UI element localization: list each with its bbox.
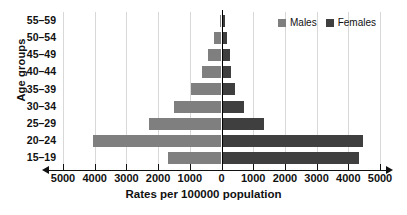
chart-legend: Males Females: [278, 17, 376, 28]
bar-males: [214, 32, 222, 44]
x-tick-label: 5000: [368, 172, 392, 184]
y-tick-label: 45–49: [0, 48, 56, 60]
legend-label-females: Females: [338, 17, 376, 28]
y-tick-label: 30–34: [0, 100, 56, 112]
x-axis-title: Rates per 100000 population: [0, 188, 407, 200]
y-tick-label: 50–54: [0, 31, 56, 43]
gridline: [380, 12, 381, 167]
x-tick: [126, 164, 127, 171]
bar-males: [174, 101, 222, 113]
y-tick-label: 15–19: [0, 151, 56, 163]
x-tick: [317, 164, 318, 171]
x-tick: [222, 164, 223, 171]
female-swatch-icon: [326, 19, 334, 27]
x-tick: [158, 164, 159, 171]
x-tick: [95, 164, 96, 171]
bar-females: [222, 66, 232, 78]
x-tick-label: 2000: [273, 172, 297, 184]
x-axis-left-arrow-icon: [42, 166, 49, 174]
y-tick-label: 55–59: [0, 14, 56, 26]
x-tick: [190, 164, 191, 171]
legend-item-males: Males: [278, 17, 317, 28]
x-tick-label: 1000: [241, 172, 265, 184]
x-tick-label: 4000: [82, 172, 106, 184]
male-swatch-icon: [278, 19, 286, 27]
y-tick-label: 25–29: [0, 117, 56, 129]
bar-females: [222, 135, 363, 147]
x-tick-label: 2000: [146, 172, 170, 184]
x-tick: [253, 164, 254, 171]
x-tick-label: 5000: [51, 172, 75, 184]
bar-males: [168, 152, 222, 164]
x-tick-label: 3000: [304, 172, 328, 184]
x-tick: [63, 164, 64, 171]
population-pyramid-chart: Age groups 55–5950–5445–4940–4435–3930–3…: [0, 0, 407, 215]
legend-item-females: Females: [326, 17, 376, 28]
bar-males: [93, 135, 221, 147]
bar-males: [208, 49, 221, 61]
y-tick-label: 20–24: [0, 134, 56, 146]
x-tick: [348, 164, 349, 171]
legend-label-males: Males: [290, 17, 317, 28]
x-tick-label: 0: [218, 172, 224, 184]
x-tick-label: 1000: [178, 172, 202, 184]
y-tick-label: 40–44: [0, 65, 56, 77]
bar-females: [222, 101, 245, 113]
bar-males: [191, 83, 221, 95]
y-axis-tick-labels: 55–5950–5445–4940–4435–3930–3425–2920–24…: [0, 12, 60, 167]
y-tick-label: 35–39: [0, 83, 56, 95]
x-tick-label: 4000: [336, 172, 360, 184]
zero-axis-line: [222, 10, 223, 170]
x-tick-label: 3000: [114, 172, 138, 184]
bar-females: [222, 83, 235, 95]
bar-females: [222, 152, 360, 164]
x-tick: [380, 164, 381, 171]
x-axis-tick-labels: 5000400030002000100001000200030004000500…: [63, 172, 380, 188]
bar-males: [202, 66, 221, 78]
bar-females: [222, 118, 265, 130]
x-tick: [285, 164, 286, 171]
bar-males: [149, 118, 222, 130]
plot-area: [63, 12, 380, 167]
x-axis-ticks: [63, 164, 380, 171]
